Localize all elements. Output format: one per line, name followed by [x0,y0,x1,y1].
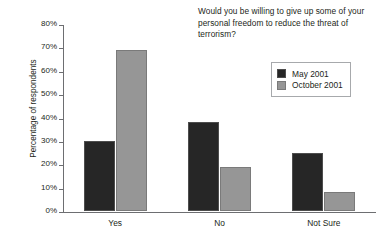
y-axis-tick-mark [59,95,63,96]
y-axis-tick-label: 0% [45,206,57,215]
x-axis-label: Yes [108,218,122,228]
legend-label: October 2001 [292,80,343,90]
x-axis-label: No [214,218,225,228]
plot-area: 0%10%20%30%40%50%60%70%80% YesNoNot Sure [63,25,376,212]
bar [84,141,115,211]
legend-swatch [277,81,286,90]
y-axis-tick-label: 10% [41,183,57,192]
legend-label: May 2001 [292,69,329,79]
y-axis-title: Percentage of respondents [29,24,38,194]
bar [324,192,355,211]
y-axis-tick-mark [59,119,63,120]
y-axis-tick-mark [59,165,63,166]
y-axis-tick-mark [59,142,63,143]
y-axis-tick-label: 80% [41,19,57,28]
y-axis-tick-mark [59,25,63,26]
y-axis-tick-mark [59,48,63,49]
y-axis-tick-label: 40% [41,113,57,122]
legend-swatch [277,69,286,78]
y-axis-tick-label: 60% [41,66,57,75]
y-axis-line [63,25,64,213]
legend-item: May 2001 [277,69,343,79]
y-axis-tick-label: 70% [41,42,57,51]
bar [220,167,251,211]
y-axis-tick-label: 30% [41,136,57,145]
chart-legend: May 2001October 2001 [271,62,351,97]
y-axis-tick-label: 50% [41,89,57,98]
x-axis-label: Not Sure [307,218,340,228]
bar [292,153,323,211]
y-axis-tick-mark [59,189,63,190]
legend-item: October 2001 [277,80,343,90]
bar [116,50,147,211]
y-axis-tick-label: 20% [41,159,57,168]
bar-chart: Would you be willing to give up some of … [0,0,382,245]
y-axis-tick-mark [59,72,63,73]
x-axis-line [63,212,376,213]
y-axis-tick-mark [59,212,63,213]
bar [188,122,219,211]
